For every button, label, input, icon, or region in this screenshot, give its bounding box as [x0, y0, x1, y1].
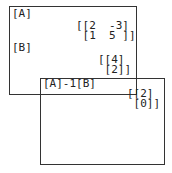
matrix-b-label: [B]: [12, 43, 32, 53]
matrix-a-label: [A]: [12, 9, 32, 19]
matrix-b-row-2: [2]]: [98, 65, 131, 75]
result-row-2: [0]]: [127, 99, 160, 109]
expression-inverse-a-times-b: [A]-1[B]: [43, 79, 96, 89]
matrix-a-row-2: [1 5 ]]: [76, 31, 136, 41]
calculator-screen-2: [A]-1[B] [[2] [0]]: [40, 78, 165, 165]
